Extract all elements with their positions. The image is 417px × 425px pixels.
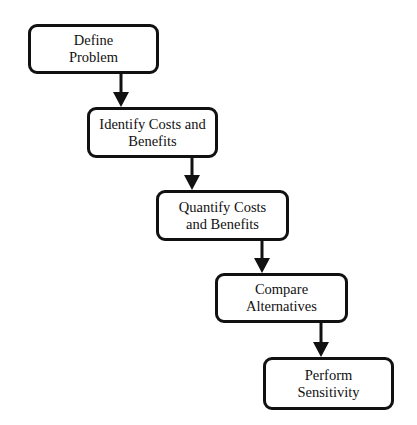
step-label: Quantify Costs and Benefits: [179, 199, 266, 233]
step-label: Identify Costs and Benefits: [99, 116, 205, 150]
arrow-identify-to-quantify: [184, 157, 200, 190]
step-label: Define Problem: [69, 32, 118, 66]
arrow-quantify-to-compare: [254, 240, 270, 273]
step-identify-costs-benefits: Identify Costs and Benefits: [87, 107, 218, 158]
step-define-problem: Define Problem: [28, 24, 159, 74]
arrow-compare-to-perform: [313, 322, 329, 357]
step-compare-alternatives: Compare Alternatives: [215, 273, 348, 323]
step-perform-sensitivity: Perform Sensitivity: [263, 357, 394, 410]
arrow-define-to-identify: [113, 73, 129, 107]
step-label: Perform Sensitivity: [297, 367, 359, 401]
step-label: Compare Alternatives: [246, 281, 317, 315]
step-quantify-costs-benefits: Quantify Costs and Benefits: [156, 190, 289, 241]
